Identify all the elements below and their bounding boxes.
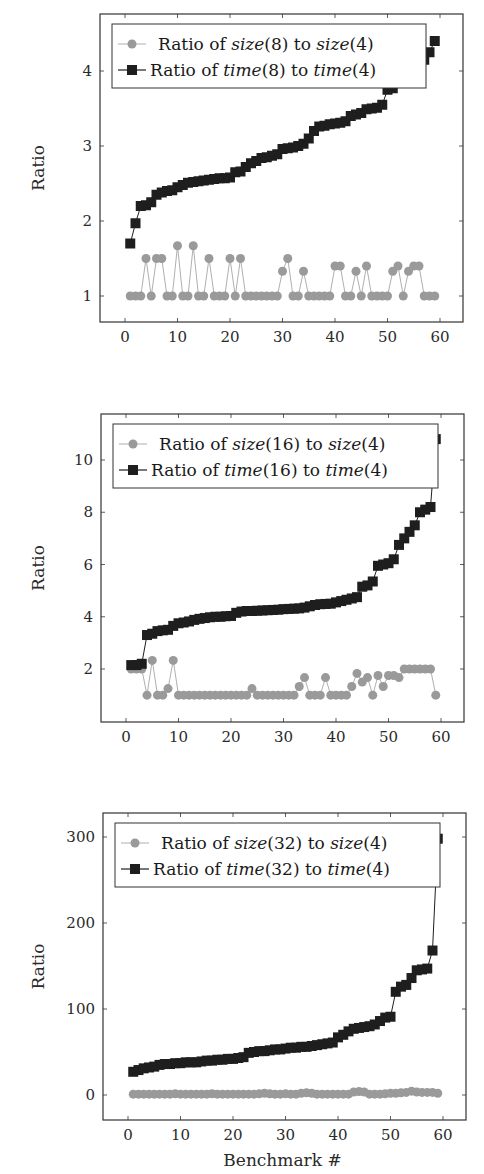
x-tick-label: 30	[276, 1126, 295, 1144]
y-tick-label: 100	[66, 1000, 95, 1018]
data-point-circle	[220, 292, 229, 301]
legend-label: Ratio of time(16) to time(4)	[151, 460, 388, 480]
x-tick-label: 50	[381, 1126, 400, 1144]
data-point-circle	[136, 292, 145, 301]
data-point-circle	[164, 684, 173, 693]
data-point-circle	[148, 656, 157, 665]
data-point-circle	[226, 254, 235, 263]
y-tick-label: 300	[66, 828, 95, 846]
legend: Ratio of size(8) to size(4)Ratio of time…	[112, 24, 426, 88]
y-axis-label: Ratio	[28, 944, 48, 990]
x-axis-label: Benchmark #	[223, 1150, 341, 1170]
x-tick-label: 40	[326, 728, 345, 746]
y-tick-label: 1	[82, 287, 92, 305]
data-point-square	[422, 964, 432, 974]
legend: Ratio of size(32) to size(4)Ratio of tim…	[115, 823, 440, 887]
chart-size32-vs-size4: 01020304050600100200300RatioBenchmark #R…	[0, 800, 484, 1174]
data-point-circle	[283, 254, 292, 263]
data-point-circle	[374, 671, 383, 680]
data-point-circle	[184, 292, 193, 301]
data-point-circle	[394, 262, 403, 271]
x-tick-label: 10	[171, 1126, 190, 1144]
data-point-square	[410, 520, 420, 530]
data-point-circle	[433, 1089, 442, 1098]
x-tick-label: 60	[430, 328, 449, 346]
y-tick-label: 8	[83, 503, 93, 521]
x-tick-label: 50	[379, 728, 398, 746]
x-tick-label: 30	[274, 728, 293, 746]
chart-panel-size16: 0102030405060246810RatioRatio of size(16…	[0, 400, 484, 800]
data-point-circle	[395, 673, 404, 682]
data-point-circle	[415, 262, 424, 271]
data-point-circle	[357, 292, 366, 301]
x-tick-label: 0	[121, 728, 131, 746]
data-point-square	[389, 554, 399, 564]
legend-entry-size: Ratio of size(32) to size(4)	[121, 833, 387, 853]
y-tick-label: 4	[82, 62, 92, 80]
y-tick-label: 3	[82, 137, 92, 155]
data-point-square	[137, 659, 147, 669]
data-point-circle	[336, 262, 345, 271]
data-point-circle	[199, 292, 208, 301]
data-point-circle	[431, 691, 440, 700]
data-point-circle	[347, 682, 356, 691]
data-point-circle	[426, 665, 435, 674]
legend-circle-marker-icon	[131, 839, 140, 848]
x-tick-label: 40	[325, 328, 344, 346]
data-point-square	[386, 1012, 396, 1022]
data-point-circle	[321, 673, 330, 682]
x-tick-label: 0	[120, 328, 130, 346]
x-tick-label: 20	[221, 728, 240, 746]
data-point-circle	[169, 656, 178, 665]
legend-square-marker-icon	[128, 465, 138, 475]
legend-entry-time: Ratio of time(16) to time(4)	[119, 460, 388, 480]
data-point-circle	[346, 292, 355, 301]
y-tick-label: 2	[82, 212, 92, 230]
size-ratio-series	[126, 241, 440, 300]
chart-panel-size8: 01020304050601234RatioRatio of size(8) t…	[0, 0, 484, 400]
y-axis-label: Ratio	[28, 145, 48, 191]
data-point-circle	[142, 254, 151, 263]
legend-square-marker-icon	[127, 65, 137, 75]
y-axis-label: Ratio	[28, 545, 48, 591]
chart-size16-vs-size4: 0102030405060246810RatioRatio of size(16…	[0, 400, 484, 800]
data-point-square	[131, 218, 141, 228]
data-point-circle	[300, 673, 309, 682]
data-point-circle	[383, 292, 392, 301]
chart-panel-size32: 01020304050600100200300RatioBenchmark #R…	[0, 800, 484, 1174]
data-point-circle	[273, 292, 282, 301]
x-tick-label: 50	[378, 328, 397, 346]
legend-square-marker-icon	[130, 864, 140, 874]
chart-size8-vs-size4: 01020304050601234RatioRatio of size(8) t…	[0, 0, 484, 400]
y-tick-label: 4	[83, 608, 93, 626]
y-tick-label: 6	[83, 556, 93, 574]
x-tick-label: 60	[433, 1126, 452, 1144]
data-point-circle	[299, 267, 308, 276]
data-point-circle	[362, 262, 371, 271]
data-point-square	[125, 239, 135, 249]
data-point-circle	[368, 691, 377, 700]
y-tick-label: 10	[74, 451, 93, 469]
legend-entry-size: Ratio of size(16) to size(4)	[119, 434, 385, 454]
data-point-circle	[231, 292, 240, 301]
data-point-circle	[352, 267, 361, 276]
legend-label: Ratio of size(16) to size(4)	[159, 434, 385, 454]
x-tick-label: 60	[431, 728, 450, 746]
data-point-circle	[189, 241, 198, 250]
data-point-square	[352, 592, 362, 602]
legend-label: Ratio of size(8) to size(4)	[158, 34, 374, 54]
data-point-circle	[147, 292, 156, 301]
x-tick-label: 10	[168, 328, 187, 346]
size-ratio-series	[129, 1087, 443, 1099]
data-point-circle	[325, 292, 334, 301]
x-tick-label: 10	[169, 728, 188, 746]
x-tick-label: 20	[220, 328, 239, 346]
data-point-circle	[342, 691, 351, 700]
data-point-circle	[379, 682, 388, 691]
data-point-circle	[353, 669, 362, 678]
x-tick-label: 20	[223, 1126, 242, 1144]
data-point-circle	[157, 254, 166, 263]
data-point-square	[426, 502, 436, 512]
data-point-square	[430, 36, 440, 46]
size-ratio-series	[127, 656, 441, 700]
